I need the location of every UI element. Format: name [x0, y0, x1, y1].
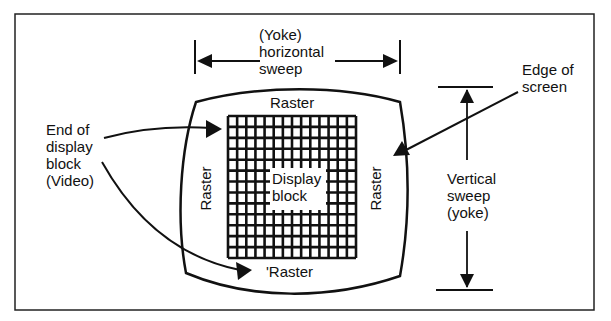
display-block-label: Display block	[272, 170, 321, 204]
label-line: End of	[46, 121, 94, 138]
raster-bottom-label: 'Raster	[266, 263, 313, 280]
end-of-display-block-label: End of display block (Video)	[46, 121, 94, 189]
raster-left-label: Raster	[197, 164, 214, 214]
crt-raster-diagram: (Yoke) horizontal sweep Edge of screen E…	[0, 0, 611, 321]
label-line: block	[46, 155, 94, 172]
label-line: sweep	[447, 187, 496, 204]
label-line: block	[272, 187, 321, 204]
label-line: Vertical	[447, 170, 496, 187]
label-line: horizontal	[259, 43, 324, 60]
edge-of-screen-label: Edge of screen	[522, 61, 574, 95]
label-line: (yoke)	[447, 204, 496, 221]
edge-of-screen-arrow	[393, 92, 518, 156]
vertical-sweep-label: Vertical sweep (yoke)	[447, 170, 496, 221]
raster-top-label: Raster	[270, 94, 314, 111]
label-line: (Yoke)	[259, 26, 324, 43]
raster-right-label: Raster	[367, 164, 384, 214]
label-line: Display	[272, 170, 321, 187]
arrowhead-top	[206, 120, 222, 138]
arrowhead-bottom	[236, 262, 252, 280]
label-line: sweep	[259, 60, 324, 77]
label-line: display	[46, 138, 94, 155]
label-line: screen	[522, 78, 574, 95]
label-line: Edge of	[522, 61, 574, 78]
horizontal-sweep-label: (Yoke) horizontal sweep	[259, 26, 324, 77]
label-line: (Video)	[46, 172, 94, 189]
end-of-display-block-arrows	[102, 127, 240, 270]
